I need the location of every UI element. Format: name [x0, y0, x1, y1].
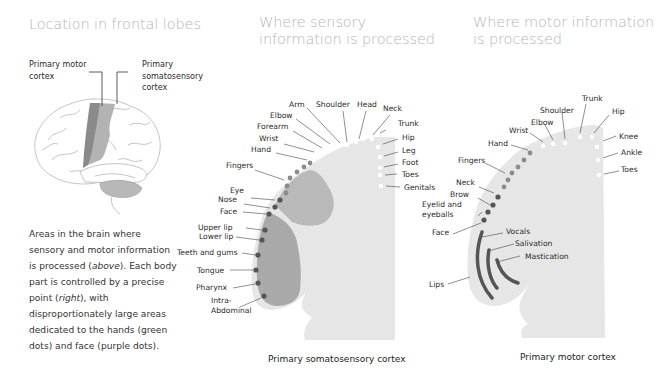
label-primary-somatosensory-cortex: Primary somatosensory cortex: [142, 59, 203, 94]
sensory-label-genitals: Genitals: [404, 183, 435, 193]
sensory-label-trunk: Trunk: [398, 119, 419, 129]
sensory-label-hand: Hand: [251, 145, 271, 155]
motor-cortex-bg: [467, 125, 605, 338]
label-primary-motor-cortex: Primary motor cortex: [29, 59, 86, 82]
motor-label-elbow: Elbow: [531, 118, 554, 128]
sensory-label-head: Head: [357, 100, 377, 110]
motor-label-toes: Toes: [621, 165, 638, 175]
sensory-label-arm: Arm: [289, 100, 305, 110]
motor-label-brow: Brow: [450, 190, 469, 200]
motor-label-fingers: Fingers: [458, 156, 485, 166]
motor-label-hand: Hand: [488, 139, 508, 149]
sensory-label-nose: Nose: [218, 195, 237, 205]
sensory-label-tongue: Tongue: [197, 266, 224, 276]
motor-label-face: Face: [432, 228, 449, 238]
sensory-label-foot: Foot: [402, 158, 418, 168]
motor-label-mastication: Mastication: [525, 252, 569, 262]
motor-label-ankle: Ankle: [621, 148, 642, 158]
motor-label-eyelid-and-eyeballs: Eyelid and eyeballs: [422, 200, 462, 219]
motor-label-neck: Neck: [456, 178, 475, 188]
motor-label-trunk: Trunk: [582, 94, 603, 104]
sensory-leader: [117, 72, 128, 104]
motor-caption: Primary motor cortex: [520, 352, 616, 362]
sensory-title: Where sensory information is processed: [259, 14, 435, 48]
sensory-label-hip: Hip: [402, 133, 415, 143]
description-text: Areas in the brain where sensory and mot…: [29, 226, 179, 354]
sensory-map: [230, 108, 400, 340]
sensory-label-forearm: Forearm: [257, 122, 288, 132]
location-title: Location in frontal lobes: [29, 16, 201, 33]
sensory-label-neck: Neck: [383, 104, 402, 114]
sensory-label-face: Face: [220, 207, 237, 217]
motor-title: Where motor information is processed: [473, 14, 654, 48]
sensory-label-shoulder: Shoulder: [316, 100, 350, 110]
sensory-caption: Primary somatosensory cortex: [268, 354, 406, 364]
motor-label-knee: Knee: [619, 132, 638, 142]
brain-cerebellum: [100, 180, 142, 197]
motor-label-salivation: Salivation: [515, 239, 552, 249]
motor-label-hip: Hip: [612, 107, 625, 117]
motor-label-wrist: Wrist: [509, 126, 528, 136]
motor-label-lips: Lips: [429, 280, 444, 290]
sensory-label-teeth-and-gums: Teeth and gums: [177, 248, 238, 258]
motor-map: [448, 104, 619, 338]
sensory-label-lower-lip: Lower lip: [199, 232, 233, 242]
sensory-label-wrist: Wrist: [259, 134, 278, 144]
sensory-label-fingers: Fingers: [226, 161, 253, 171]
sensory-label-intra-abdominal: Intra- Abdominal: [211, 296, 252, 315]
sensory-label-toes: Toes: [402, 170, 419, 180]
sensory-label-pharynx: Pharynx: [196, 283, 227, 293]
motor-label-shoulder: Shoulder: [540, 106, 574, 116]
sensory-label-leg: Leg: [402, 146, 416, 156]
motor-label-vocals: Vocals: [506, 227, 530, 237]
sensory-label-elbow: Elbow: [270, 111, 293, 121]
